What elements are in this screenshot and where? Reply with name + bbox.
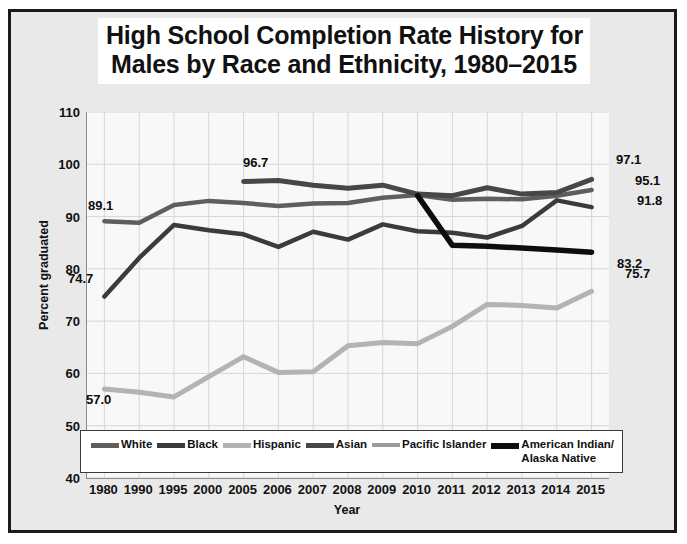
legend-item-pacific-islander[interactable]: Pacific Islander [372, 437, 486, 451]
legend-swatch-icon [491, 443, 519, 449]
data-label-74.7: 74.7 [68, 271, 93, 286]
data-label-96.7: 96.7 [243, 155, 268, 170]
y-tick-60: 60 [40, 366, 80, 381]
legend-swatch-icon [372, 443, 400, 447]
chart-title-line-1: High School Completion Rate History for [106, 21, 582, 50]
legend-swatch-icon [91, 443, 119, 448]
series-lines [87, 112, 609, 478]
legend-item-hispanic[interactable]: Hispanic [223, 437, 301, 451]
gridlines [87, 112, 609, 478]
legend-item-american-indian[interactable]: American Indian/Alaska Native [491, 437, 614, 466]
y-tick-100: 100 [40, 157, 80, 172]
chart-title: High School Completion Rate History for … [98, 18, 590, 84]
chart-figure: High School Completion Rate History for … [0, 0, 687, 544]
data-label-91.8: 91.8 [637, 193, 662, 208]
legend-label: American Indian/Alaska Native [521, 437, 614, 466]
legend-label: Pacific Islander [402, 437, 486, 451]
legend-item-asian[interactable]: Asian [306, 437, 367, 451]
data-label-75.7: 75.7 [625, 266, 650, 281]
legend-label-line-2: Alaska Native [521, 451, 614, 465]
legend-row: WhiteBlackHispanicAsianPacific IslanderA… [91, 437, 614, 466]
y-tick-110: 110 [40, 105, 80, 120]
y-axis-title: Percent graduated [37, 195, 51, 355]
data-label-89.1: 89.1 [88, 198, 113, 213]
legend-item-white[interactable]: White [91, 437, 152, 451]
legend-item-black[interactable]: Black [157, 437, 218, 451]
x-tick-2015: 2015 [561, 482, 621, 497]
legend-label: Hispanic [253, 437, 301, 451]
legend-swatch-icon [223, 443, 251, 448]
data-label-57.0: 57.0 [86, 392, 111, 407]
data-label-95.1: 95.1 [635, 173, 660, 188]
legend-label: Asian [336, 437, 367, 451]
plot-area [86, 112, 609, 479]
x-axis-title: Year [86, 503, 608, 517]
legend-label: White [121, 437, 152, 451]
y-tick-50: 50 [40, 418, 80, 433]
chart-title-line-2: Males by Race and Ethnicity, 1980–2015 [106, 50, 582, 79]
legend-swatch-icon [157, 443, 185, 448]
data-label-97.1: 97.1 [616, 152, 641, 167]
chart-legend: WhiteBlackHispanicAsianPacific IslanderA… [80, 430, 623, 473]
x-axis-tick-labels: 1980199019952000200520062007200820092010… [86, 482, 608, 502]
legend-swatch-icon [306, 443, 334, 448]
legend-label: Black [187, 437, 218, 451]
